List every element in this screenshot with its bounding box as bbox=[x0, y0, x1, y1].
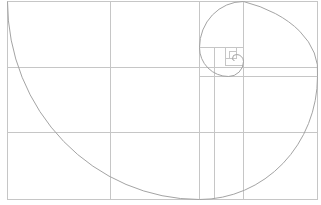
golden-rectangle bbox=[200, 2, 244, 48]
golden-spiral-diagram: Golden ratio spiral overlay bbox=[0, 0, 321, 205]
outer-frame bbox=[8, 2, 318, 200]
golden-spiral-svg bbox=[0, 0, 321, 205]
golden-rectangle bbox=[226, 48, 237, 59]
grid-lines bbox=[8, 2, 318, 200]
golden-spiral-curve bbox=[8, 2, 318, 200]
